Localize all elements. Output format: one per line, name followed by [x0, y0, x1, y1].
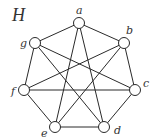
- vertex-e: [50, 122, 61, 133]
- graph-title: H: [11, 5, 26, 25]
- vertex-label-e: e: [41, 127, 48, 139]
- vertex-label-a: a: [76, 4, 83, 17]
- vertex-label-g: g: [20, 37, 27, 50]
- edge-b-c: [124, 43, 135, 90]
- vertex-g: [30, 38, 41, 49]
- vertex-label-c: c: [143, 77, 149, 90]
- edge-a-e: [55, 23, 79, 127]
- edges-group: [24, 23, 135, 127]
- vertex-label-b: b: [126, 24, 133, 37]
- vertex-label-d: d: [114, 124, 121, 137]
- vertex-d: [99, 122, 110, 133]
- vertex-b: [119, 38, 130, 49]
- edge-a-b: [79, 23, 124, 43]
- edge-f-g: [24, 43, 35, 90]
- vertex-label-f: f: [10, 85, 17, 98]
- edge-c-d: [104, 90, 135, 127]
- edge-b-f: [24, 43, 124, 90]
- graph-diagram: H abcdefg: [0, 0, 154, 139]
- vertex-f: [19, 85, 30, 96]
- edge-g-a: [35, 23, 79, 43]
- vertex-c: [130, 85, 141, 96]
- edge-e-f: [24, 90, 55, 127]
- vertices-group: [19, 18, 141, 133]
- edge-b-e: [55, 43, 124, 127]
- vertex-a: [74, 18, 85, 29]
